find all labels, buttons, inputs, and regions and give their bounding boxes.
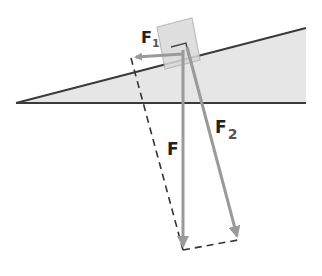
dashed-line-bottom bbox=[183, 240, 238, 250]
label-F2: F2 bbox=[215, 117, 237, 142]
block-body bbox=[157, 18, 200, 69]
block bbox=[157, 18, 200, 69]
label-F: F bbox=[167, 139, 179, 159]
label-F1: F1 bbox=[141, 28, 160, 50]
force-diagram: F1 F F2 bbox=[0, 0, 322, 276]
